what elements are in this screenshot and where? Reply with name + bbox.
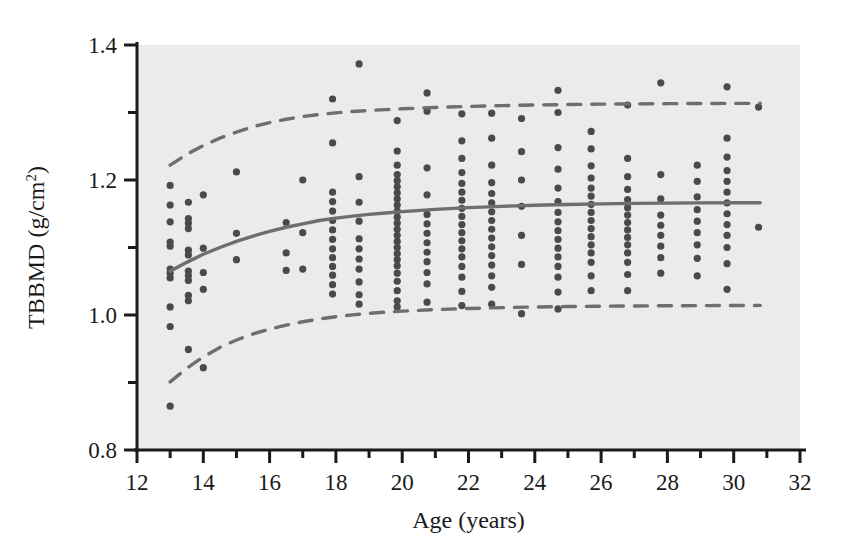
data-point	[624, 259, 631, 266]
y-axis-title-superscript: 2	[23, 174, 39, 182]
data-point	[588, 241, 595, 248]
y-tick-label: 0.8	[88, 438, 117, 463]
data-point	[694, 162, 701, 169]
data-point	[356, 199, 363, 206]
data-point	[394, 270, 401, 277]
data-point	[554, 288, 561, 295]
data-point	[723, 153, 730, 160]
data-point	[458, 189, 465, 196]
data-point	[723, 189, 730, 196]
data-point	[458, 245, 465, 252]
data-point	[488, 234, 495, 241]
data-point	[723, 286, 730, 293]
data-point	[488, 162, 495, 169]
data-point	[356, 60, 363, 67]
data-point	[588, 233, 595, 240]
data-point	[588, 225, 595, 232]
x-tick-label: 22	[457, 470, 480, 495]
data-point	[356, 235, 363, 242]
data-point	[394, 147, 401, 154]
data-point	[723, 135, 730, 142]
data-point	[755, 224, 762, 231]
data-point	[723, 83, 730, 90]
data-point	[657, 232, 664, 239]
data-point	[329, 263, 336, 270]
y-axis-title: TBBMD (g/cm2)	[23, 166, 49, 329]
data-point	[167, 239, 174, 246]
data-point	[329, 236, 336, 243]
data-point	[458, 229, 465, 236]
data-point	[329, 272, 336, 279]
y-tick-label: 1.2	[88, 168, 117, 193]
data-point	[356, 291, 363, 298]
data-point	[167, 303, 174, 310]
data-point	[588, 287, 595, 294]
data-point	[488, 110, 495, 117]
data-point	[458, 237, 465, 244]
data-point	[657, 243, 664, 250]
data-point	[458, 302, 465, 309]
x-tick-label: 26	[590, 470, 613, 495]
data-point	[624, 186, 631, 193]
data-point	[624, 155, 631, 162]
data-point	[185, 292, 192, 299]
data-point	[329, 245, 336, 252]
data-point	[588, 185, 595, 192]
data-point	[299, 176, 306, 183]
data-point	[488, 252, 495, 259]
x-tick-label: 28	[656, 470, 679, 495]
data-point	[554, 185, 561, 192]
data-point	[356, 218, 363, 225]
data-point	[394, 297, 401, 304]
data-point	[588, 217, 595, 224]
data-point	[488, 190, 495, 197]
data-point	[423, 299, 430, 306]
data-point	[657, 270, 664, 277]
data-point	[694, 241, 701, 248]
data-point	[423, 280, 430, 287]
data-point	[329, 198, 336, 205]
data-point	[329, 95, 336, 102]
data-point	[423, 220, 430, 227]
data-point	[423, 249, 430, 256]
data-point	[458, 110, 465, 117]
data-point	[694, 178, 701, 185]
data-point	[723, 260, 730, 267]
data-point	[200, 364, 207, 371]
data-point	[518, 261, 525, 268]
data-point	[394, 171, 401, 178]
data-point	[723, 244, 730, 251]
data-point	[329, 290, 336, 297]
x-tick-label: 30	[722, 470, 745, 495]
x-tick-label: 18	[324, 470, 347, 495]
data-point	[518, 310, 525, 317]
data-point	[488, 272, 495, 279]
data-point	[200, 245, 207, 252]
data-point	[329, 226, 336, 233]
data-point	[588, 272, 595, 279]
data-point	[588, 128, 595, 135]
data-point	[624, 226, 631, 233]
data-point	[394, 287, 401, 294]
data-point	[356, 245, 363, 252]
data-point	[588, 193, 595, 200]
data-point	[458, 274, 465, 281]
data-point	[588, 249, 595, 256]
scatter-plot: 1214161820222426283032 0.81.01.21.4 Age …	[0, 0, 855, 559]
data-point	[356, 278, 363, 285]
data-point	[624, 287, 631, 294]
data-point	[624, 212, 631, 219]
data-point	[554, 305, 561, 312]
x-tick-label: 12	[126, 470, 149, 495]
data-point	[554, 274, 561, 281]
figure-container: 1214161820222426283032 0.81.01.21.4 Age …	[0, 0, 855, 559]
data-point	[488, 284, 495, 291]
data-point	[657, 254, 664, 261]
data-point	[694, 218, 701, 225]
data-point	[694, 193, 701, 200]
data-point	[488, 261, 495, 268]
x-tick-label: 20	[391, 470, 414, 495]
data-point	[185, 268, 192, 275]
data-point	[283, 267, 290, 274]
data-point	[624, 271, 631, 278]
